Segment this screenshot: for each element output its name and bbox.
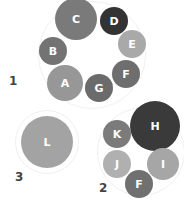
node-j-group-2: J — [103, 150, 131, 178]
node-b-group-1: B — [39, 37, 67, 65]
node-k-group-2: K — [103, 120, 131, 148]
node-c-group-1: C — [55, 0, 97, 40]
node-g-group-1: G — [85, 74, 113, 102]
node-f-group-1: F — [112, 60, 140, 88]
group-label-1: 1 — [9, 74, 17, 88]
node-e-group-1: E — [118, 30, 146, 58]
node-a-group-1: A — [47, 65, 83, 101]
node-i-group-2: I — [147, 148, 179, 180]
node-h-group-2: H — [130, 101, 180, 151]
group-label-2: 2 — [99, 181, 107, 195]
node-d-group-1: D — [100, 7, 128, 35]
node-l-group-3: L — [21, 116, 73, 168]
group-label-3: 3 — [15, 170, 23, 184]
node-f-group-2: F — [125, 170, 153, 198]
